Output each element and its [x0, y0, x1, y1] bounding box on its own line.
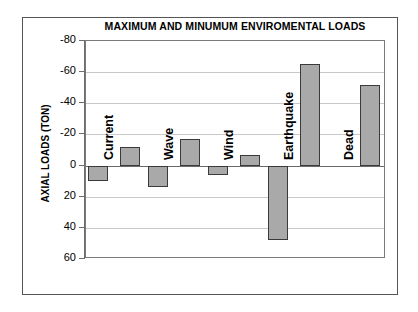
category-label-earthquake: Earthquake [282, 91, 296, 159]
plot-area: CurrentWaveWindEarthquakeDead [85, 40, 385, 258]
category-label-wind: Wind [222, 129, 236, 159]
bar-earthquake-maximum [300, 64, 320, 165]
bar-earthquake-minimum [268, 166, 288, 241]
category-label-wave: Wave [162, 127, 176, 159]
gridline-40 [86, 228, 384, 229]
bar-wind-minimum [208, 166, 228, 175]
y-tick-label: 0 [32, 159, 76, 170]
bar-wave-minimum [148, 166, 168, 188]
bar-dead-maximum [360, 85, 380, 166]
y-tick-label: 60 [32, 252, 76, 263]
y-tick-mark [79, 258, 85, 259]
y-tick-label: 20 [32, 190, 76, 201]
bar-wind-maximum [240, 155, 260, 166]
bar-wave-maximum [180, 139, 200, 165]
gridline-0 [86, 166, 384, 167]
y-tick-label: -80 [32, 34, 76, 45]
category-label-dead: Dead [342, 129, 356, 160]
y-tick-label: 40 [32, 221, 76, 232]
gridline-20 [86, 197, 384, 198]
chart-figure: MAXIMUM AND MINUMUM ENVIROMENTAL LOADS A… [0, 0, 418, 312]
bar-current-minimum [88, 166, 108, 182]
y-tick-label: -40 [32, 96, 76, 107]
category-label-current: Current [102, 114, 116, 159]
y-tick-label: -60 [32, 65, 76, 76]
gridline--40 [86, 103, 384, 104]
bar-current-maximum [120, 147, 140, 166]
y-tick-label: -20 [32, 127, 76, 138]
gridline--60 [86, 72, 384, 73]
chart-title: MAXIMUM AND MINUMUM ENVIROMENTAL LOADS [85, 20, 385, 32]
